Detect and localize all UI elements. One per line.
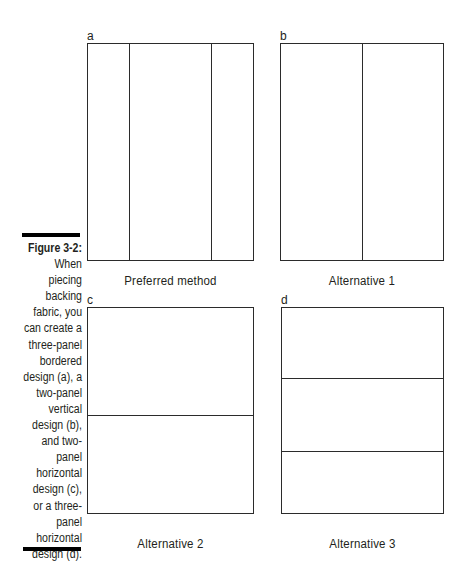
caption-line: or a three-: [33, 499, 82, 513]
caption-top-rule: [22, 233, 80, 237]
panel-a-label: a: [87, 30, 94, 42]
panel-d-label: d: [281, 294, 288, 306]
caption-line: vertical: [49, 402, 82, 416]
figure-title: Figure 3-2:: [12, 240, 82, 256]
panel-b-diagram: [280, 43, 444, 261]
caption-line: design (c),: [33, 482, 82, 496]
figure-caption: Figure 3-2: When piecing backing fabric,…: [12, 240, 82, 562]
panel-d-diagram: [281, 307, 444, 514]
caption-line: panel: [56, 515, 82, 529]
panel-a-divider-right: [211, 44, 212, 260]
panel-c-caption: Alternative 2: [94, 537, 248, 551]
caption-line: horizontal: [36, 531, 82, 545]
caption-line: two-panel: [36, 386, 82, 400]
panel-b-divider: [362, 44, 363, 260]
panel-b-caption: Alternative 1: [287, 274, 438, 288]
panel-c-label: c: [87, 294, 93, 306]
panel-d-caption: Alternative 3: [288, 537, 438, 551]
caption-bottom-rule: [23, 547, 81, 551]
panel-c-diagram: [87, 307, 254, 514]
caption-line: design (b),: [32, 418, 82, 432]
caption-line: backing: [46, 289, 82, 303]
caption-line: panel: [56, 450, 82, 464]
panel-a-caption: Preferred method: [94, 274, 248, 288]
panel-d-divider-bottom: [282, 451, 443, 452]
panel-d-divider-top: [282, 378, 443, 379]
caption-line: piecing: [49, 273, 82, 287]
caption-line: fabric, you: [33, 305, 82, 319]
panel-b-label: b: [280, 30, 287, 42]
caption-line: bordered: [40, 354, 82, 368]
panel-c-divider: [88, 415, 253, 416]
caption-line: can create a: [24, 321, 82, 335]
caption-line: three-panel: [29, 338, 82, 352]
panel-a-divider-left: [129, 44, 130, 260]
caption-line: design (a), a: [23, 370, 82, 384]
panel-a-diagram: [87, 43, 254, 261]
caption-line: and two-: [41, 434, 82, 448]
caption-line: horizontal: [36, 466, 82, 480]
caption-line: When: [54, 257, 82, 271]
